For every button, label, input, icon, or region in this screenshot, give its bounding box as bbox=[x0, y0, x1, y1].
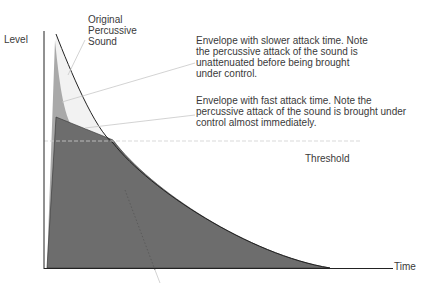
slow-leader-line bbox=[62, 63, 195, 102]
release-leader-line bbox=[155, 270, 160, 283]
original-leader-line bbox=[68, 40, 85, 75]
fast-attack-label: Envelope with fast attack time. Note the… bbox=[196, 95, 406, 128]
original-sound-label: Original Percussive Sound bbox=[88, 14, 137, 47]
fast-attack-envelope-area bbox=[47, 117, 330, 268]
y-axis-label: Level bbox=[4, 34, 28, 45]
slow-attack-label: Envelope with slower attack time. Note t… bbox=[196, 35, 368, 79]
threshold-label: Threshold bbox=[305, 153, 349, 164]
x-axis-label: Time bbox=[394, 261, 416, 272]
fast-leader-line bbox=[85, 115, 195, 128]
